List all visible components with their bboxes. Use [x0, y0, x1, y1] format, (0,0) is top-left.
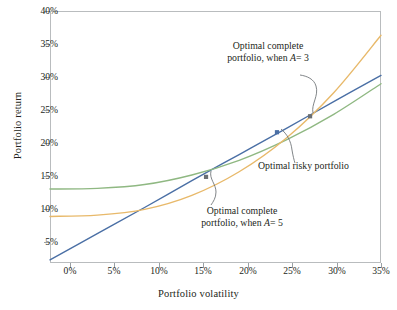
annotation-risky-line1: Optimal risky portfolio — [258, 160, 349, 171]
data-point-marker-2 — [308, 114, 312, 118]
leader-line-a5 — [211, 171, 216, 205]
series-line-1 — [50, 84, 381, 189]
annotation-optimal-risky-portfolio: Optimal risky portfolio — [258, 160, 388, 172]
leader-line-risky — [281, 129, 295, 163]
annotation-a5-line2-post: = 5 — [270, 217, 283, 228]
data-point-marker-0 — [204, 175, 208, 179]
annotation-a3-line2-post: = 3 — [296, 52, 309, 63]
portfolio-chart: 40% 35% 30% 25% 20% 15% 10% 5% 0% 5% 10%… — [0, 0, 397, 310]
annotation-optimal-complete-a5: Optimal complete portfolio, when A= 5 — [168, 205, 316, 230]
annotation-a5-line1: Optimal complete — [207, 205, 277, 216]
annotation-optimal-complete-a3: Optimal complete portfolio, when A= 3 — [198, 40, 338, 65]
leader-lines — [211, 75, 317, 205]
leader-line-a3 — [300, 75, 317, 113]
annotation-a5-line2-pre: portfolio, when — [201, 217, 264, 228]
data-point-marker-1 — [275, 130, 279, 134]
annotation-a3-line1: Optimal complete — [233, 40, 303, 51]
annotation-a3-line2-pre: portfolio, when — [227, 52, 290, 63]
